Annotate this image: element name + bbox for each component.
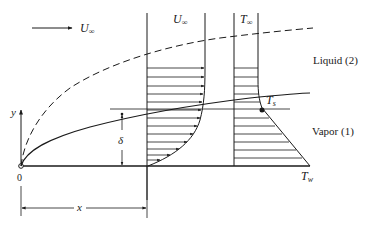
liquid-region-label: Liquid (2) <box>313 54 358 67</box>
delta-label: δ <box>118 134 124 146</box>
origin-label: 0 <box>17 172 22 183</box>
temperature-profile-label: T∞ <box>240 12 253 27</box>
vapor-region-label: Vapor (1) <box>312 125 354 138</box>
velocity-arrows <box>147 68 204 160</box>
wall-temp-label: Tw <box>301 169 314 184</box>
delta-point <box>121 113 124 116</box>
temperature-profile-curve <box>258 13 310 166</box>
velocity-profile-label: U∞ <box>173 12 188 27</box>
saturation-point <box>260 108 265 113</box>
velocity-profile-curve <box>148 13 205 166</box>
y-axis-label: y <box>10 106 16 118</box>
boundary-layer-diagram: U∞ y 0 δ U∞ T∞ <box>0 0 365 235</box>
freestream-velocity-label: U∞ <box>80 21 95 36</box>
x-dimension-label: x <box>76 201 82 213</box>
